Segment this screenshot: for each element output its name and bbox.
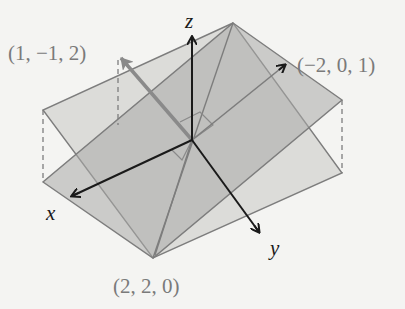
label-normal-1: (1, −1, 2): [8, 41, 86, 65]
y-axis-label: y: [268, 236, 280, 260]
label-normal-2: (−2, 0, 1): [297, 53, 375, 77]
z-axis-label: z: [184, 9, 193, 33]
label-intersection-point: (2, 2, 0): [113, 274, 180, 298]
diagram-canvas: z x y (1, −1, 2) (−2, 0, 1) (2, 2, 0): [0, 0, 405, 309]
x-axis-label: x: [45, 201, 56, 225]
